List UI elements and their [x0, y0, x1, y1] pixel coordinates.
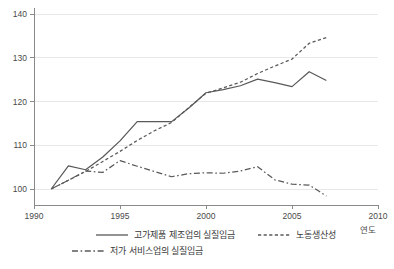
y-tick-label: 100: [13, 184, 27, 194]
x-tick-label: 2010: [369, 211, 388, 221]
x-axis-title: 연도: [360, 225, 376, 235]
x-tick-label: 2000: [197, 211, 216, 221]
gridlines: [34, 14, 378, 189]
series-line-1: [51, 72, 326, 189]
x-tick-label: 1990: [25, 211, 44, 221]
series-line-2: [51, 38, 326, 189]
y-tick-label: 120: [13, 97, 27, 107]
y-axis-tick-labels: 100110120130140: [13, 9, 27, 194]
y-tick-label: 130: [13, 53, 27, 63]
legend-label-3: 저가 서비스업의 실질임금: [110, 245, 203, 256]
chart-legend: 고가제품 제조업의 실질임금노동생산성저가 서비스업의 실질임금: [72, 229, 336, 256]
x-tick-label: 2005: [283, 211, 302, 221]
y-axis-ticks: [30, 14, 34, 189]
legend-label-2: 노동생산성: [296, 230, 336, 240]
x-tick-label: 1995: [111, 211, 130, 221]
y-tick-label: 140: [13, 9, 27, 19]
chart-container: 100110120130140 19901995200020052010 연도 …: [0, 0, 394, 269]
series-line-3: [51, 161, 326, 196]
legend-label-1: 고가제품 제조업의 실질임금: [134, 229, 235, 240]
x-axis-ticks: [34, 205, 378, 209]
y-tick-label: 110: [13, 140, 27, 150]
data-series-group: [51, 38, 326, 196]
line-chart: 100110120130140 19901995200020052010 연도 …: [0, 0, 394, 269]
x-axis-tick-labels: 19901995200020052010: [25, 211, 388, 221]
